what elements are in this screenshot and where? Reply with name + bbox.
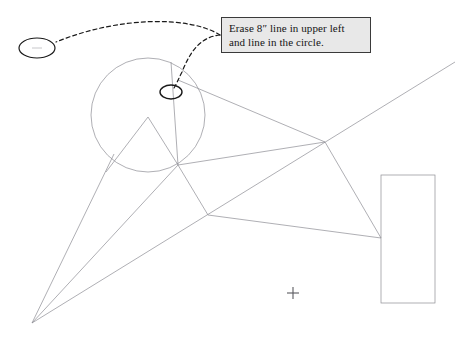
wedge-upper-line [32, 165, 178, 323]
leader-to-circle-ellipse [174, 35, 220, 88]
upper-right-to-rect-line [325, 142, 381, 238]
callout-line-2: and line in the circle. [229, 35, 364, 49]
leader-to-left-ellipse [56, 22, 220, 42]
triangle-left-leg [106, 117, 148, 172]
circle-ellipse-target [160, 85, 182, 99]
leader-lines [56, 22, 220, 88]
hub-to-upper-right-line [178, 142, 325, 165]
mid-to-rect-line [208, 215, 381, 238]
center-cross-marker [287, 287, 299, 299]
main-circle [91, 58, 205, 172]
circle-inner-vertical-line [171, 62, 178, 165]
erase-instruction-callout[interactable]: Erase 8″ line in upper left and line in … [221, 17, 371, 53]
drawing-canvas: Erase 8″ line in upper left and line in … [0, 0, 474, 341]
right-rectangle [381, 175, 435, 303]
triangle-right-leg [148, 117, 178, 165]
callout-line-1: Erase 8″ line in upper left [229, 21, 364, 35]
hub-to-mid-line [178, 165, 208, 215]
circle-top-to-upper-right-line [178, 80, 325, 142]
construction-geometry [32, 58, 455, 323]
